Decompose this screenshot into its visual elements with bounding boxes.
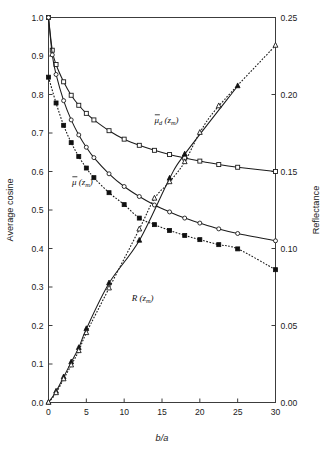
bottom-tick-label: 0 xyxy=(46,407,51,417)
marker-open-circle xyxy=(274,239,278,243)
left-tick-label: 0.9 xyxy=(32,51,44,61)
marker-open-circle xyxy=(168,210,172,214)
marker-open-square xyxy=(107,129,111,133)
bottom-axis-ticks: 051015202530 xyxy=(46,399,280,417)
right-tick-label: 0.15 xyxy=(281,167,298,177)
marker-open-square xyxy=(274,170,278,174)
marker-open-circle xyxy=(77,133,81,137)
left-tick-label: 0.7 xyxy=(32,128,44,138)
mu-label-text: μ (zm) xyxy=(71,177,93,188)
left-tick-label: 0.1 xyxy=(32,359,44,369)
marker-open-square xyxy=(84,111,88,115)
r-label-text: R (zm) xyxy=(131,293,154,304)
x-axis-title: b/a xyxy=(156,433,169,443)
marker-filled-square xyxy=(47,75,51,79)
right-tick-label: 0.25 xyxy=(281,13,298,23)
marker-open-square xyxy=(236,165,240,169)
marker-open-circle xyxy=(50,53,54,57)
glyph-argend: ) xyxy=(150,293,154,303)
plot-frame xyxy=(49,18,276,403)
marker-filled-square xyxy=(137,216,141,220)
left-tick-label: 0.6 xyxy=(32,167,44,177)
series-line-1 xyxy=(49,18,276,241)
bottom-tick-label: 10 xyxy=(119,407,129,417)
bottom-tick-label: 5 xyxy=(84,407,89,417)
marker-filled-square xyxy=(198,238,202,242)
right-tick-label: 0.00 xyxy=(281,398,298,408)
marker-open-triangle xyxy=(197,130,202,135)
marker-filled-square xyxy=(122,203,126,207)
mu-d-label-text: μd (zm) xyxy=(153,115,178,126)
left-tick-label: 0.8 xyxy=(32,90,44,100)
right-tick-label: 0.10 xyxy=(281,244,298,254)
bottom-tick-label: 25 xyxy=(233,407,243,417)
axes-frame xyxy=(49,18,276,403)
left-tick-label: 0.2 xyxy=(32,321,44,331)
marker-open-circle xyxy=(62,99,66,103)
marker-open-square xyxy=(198,159,202,163)
right-tick-label: 0.05 xyxy=(281,321,298,331)
marker-open-circle xyxy=(107,172,111,176)
series-R(z_m)-open xyxy=(46,42,278,404)
marker-open-circle xyxy=(217,227,221,231)
left-tick-label: 0.5 xyxy=(32,205,44,215)
marker-filled-square xyxy=(77,154,81,158)
glyph-argend: ) xyxy=(175,115,179,125)
marker-open-triangle xyxy=(273,42,278,47)
left-axis-title: Average cosine xyxy=(5,178,15,241)
left-axis-ticks: 0.00.10.20.30.40.50.60.70.80.91.0 xyxy=(32,13,53,408)
marker-open-circle xyxy=(122,185,126,189)
marker-filled-square xyxy=(62,123,66,127)
marker-filled-square xyxy=(69,141,73,145)
left-tick-label: 1.0 xyxy=(32,13,44,23)
marker-open-circle xyxy=(198,221,202,225)
left-tick-label: 0.3 xyxy=(32,282,44,292)
left-tick-label: 0.4 xyxy=(32,244,44,254)
series-line-4 xyxy=(49,46,276,403)
marker-filled-square xyxy=(152,223,156,227)
marker-open-square xyxy=(54,62,58,66)
marker-open-circle xyxy=(236,231,240,235)
marker-open-circle xyxy=(137,195,141,199)
r-label: R (zm) xyxy=(131,293,154,304)
marker-filled-square xyxy=(274,268,278,272)
marker-open-triangle xyxy=(152,195,157,200)
marker-open-square xyxy=(69,93,73,97)
marker-open-circle xyxy=(183,216,187,220)
marker-open-circle xyxy=(54,72,58,76)
marker-open-square xyxy=(122,137,126,141)
marker-filled-square xyxy=(84,166,88,170)
chart-canvas: 0.00.10.20.30.40.50.60.70.80.91.0 0.000.… xyxy=(0,0,329,453)
marker-filled-square xyxy=(168,228,172,232)
left-tick-label: 0.0 xyxy=(32,398,44,408)
glyph-argend: ) xyxy=(89,177,93,187)
marker-open-square xyxy=(217,163,221,167)
marker-open-square xyxy=(137,143,141,147)
right-axis-title: Reflectance xyxy=(311,186,321,235)
marker-filled-square xyxy=(107,191,111,195)
marker-filled-square xyxy=(183,233,187,237)
marker-open-circle xyxy=(92,156,96,160)
series-line-2 xyxy=(49,77,276,270)
figure-container: 0.00.10.20.30.40.50.60.70.80.91.0 0.000.… xyxy=(0,0,329,453)
bottom-tick-label: 15 xyxy=(157,407,167,417)
marker-open-square xyxy=(168,153,172,157)
series-mu_d(z_m) xyxy=(47,16,278,174)
data-series-group xyxy=(46,16,278,405)
marker-filled-square xyxy=(236,247,240,251)
bottom-tick-label: 30 xyxy=(271,407,281,417)
marker-open-circle xyxy=(47,16,51,20)
right-tick-label: 0.20 xyxy=(281,90,298,100)
marker-open-triangle xyxy=(54,390,59,395)
marker-open-square xyxy=(62,80,66,84)
bottom-tick-label: 20 xyxy=(195,407,205,417)
mu-d-label: μd (zm) xyxy=(153,115,178,126)
curve-annotations: μd (zm)μ (zm)R (zm) xyxy=(71,115,179,305)
marker-filled-square xyxy=(54,101,58,105)
marker-open-square xyxy=(152,148,156,152)
marker-open-square xyxy=(77,103,81,107)
marker-open-square xyxy=(92,118,96,122)
series-mu(z_m)-open xyxy=(47,16,278,243)
marker-open-circle xyxy=(84,145,88,149)
marker-open-circle xyxy=(69,118,73,122)
